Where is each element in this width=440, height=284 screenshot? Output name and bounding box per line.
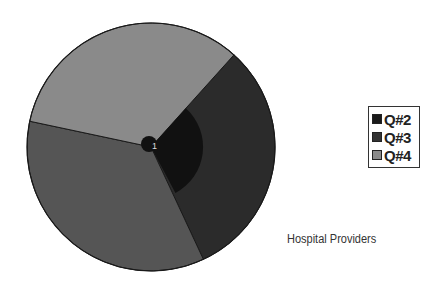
legend-item-q2: Q#2 <box>372 110 419 128</box>
legend-swatch <box>372 114 382 124</box>
legend-swatch <box>372 150 382 160</box>
legend-item-q3: Q#3 <box>372 128 419 146</box>
pie-chart: 1 <box>0 0 300 284</box>
legend-item-q4: Q#4 <box>372 146 419 164</box>
center-label: 1 <box>152 141 157 151</box>
legend-label: Q#4 <box>384 147 411 164</box>
chart-caption: Hospital Providers <box>287 232 376 246</box>
legend-label: Q#2 <box>384 111 411 128</box>
legend: Q#2 Q#3 Q#4 <box>368 106 420 168</box>
legend-swatch <box>372 132 382 142</box>
legend-label: Q#3 <box>384 129 411 146</box>
